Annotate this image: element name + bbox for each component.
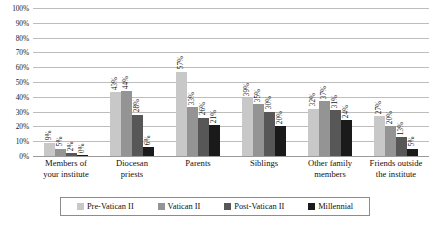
bar-fill bbox=[143, 147, 154, 156]
y-axis-tick-label: 30% bbox=[16, 107, 29, 116]
x-axis-labels: Members ofyour instituteDiocesanpriestsP… bbox=[33, 158, 429, 180]
bar-group: 43%44%28%6% bbox=[99, 8, 165, 156]
legend-swatch bbox=[158, 203, 165, 210]
bar: 28% bbox=[132, 115, 143, 156]
x-axis-label: Siblings bbox=[231, 158, 297, 180]
bar-value-label: 5% bbox=[409, 137, 416, 147]
bar-value-label: 33% bbox=[189, 92, 196, 105]
bar: 57% bbox=[176, 72, 187, 156]
legend-item[interactable]: Vatican II bbox=[158, 202, 201, 211]
x-axis-label-line: members bbox=[297, 169, 363, 180]
y-axis-tick-label: 0% bbox=[19, 152, 29, 161]
bar: 37% bbox=[319, 101, 330, 156]
bar-value-label: 30% bbox=[266, 96, 273, 109]
bar: 9% bbox=[44, 143, 55, 156]
bar-value-label: 39% bbox=[244, 83, 251, 96]
bar: 24% bbox=[341, 120, 352, 156]
x-axis-label-line: Friends outside bbox=[363, 158, 429, 169]
bar: 26% bbox=[198, 118, 209, 156]
x-axis-label: Parents bbox=[165, 158, 231, 180]
bar-group: 9%5%2%0% bbox=[33, 8, 99, 156]
bar-value-label: 20% bbox=[387, 111, 394, 124]
x-axis-label-line: the institute bbox=[363, 169, 429, 180]
bar-value-label: 20% bbox=[277, 111, 284, 124]
bar: 5% bbox=[55, 149, 66, 156]
y-axis-tick-label: 40% bbox=[16, 92, 29, 101]
bar-group: 27%20%13%5% bbox=[363, 8, 429, 156]
bar-value-label: 27% bbox=[376, 101, 383, 114]
x-axis-label-line: Members of bbox=[33, 158, 99, 169]
legend-swatch bbox=[308, 203, 315, 210]
bar-fill bbox=[330, 110, 341, 156]
bar-fill bbox=[374, 116, 385, 156]
bar: 43% bbox=[110, 92, 121, 156]
bar-fill bbox=[308, 109, 319, 156]
bar-fill bbox=[242, 98, 253, 156]
bar: 13% bbox=[396, 137, 407, 156]
bar: 20% bbox=[385, 126, 396, 156]
bar-value-label: 37% bbox=[321, 86, 328, 99]
legend-label: Vatican II bbox=[168, 202, 201, 211]
legend-label: Post-Vatican II bbox=[234, 202, 284, 211]
bar-fill bbox=[110, 92, 121, 156]
bar: 20% bbox=[275, 126, 286, 156]
bar: 27% bbox=[374, 116, 385, 156]
bar-fill bbox=[198, 118, 209, 156]
x-axis-label-line: Parents bbox=[165, 158, 231, 169]
y-axis-tick-label: 50% bbox=[16, 78, 29, 87]
x-axis-label: Friends outsidethe institute bbox=[363, 158, 429, 180]
legend: Pre-Vatican IIVatican IIPost-Vatican IIM… bbox=[60, 197, 370, 216]
bar-value-label: 21% bbox=[211, 110, 218, 123]
x-axis-label-line: priests bbox=[99, 169, 165, 180]
bar-fill bbox=[132, 115, 143, 156]
x-axis-label-line: Siblings bbox=[231, 158, 297, 169]
bar-value-label: 44% bbox=[123, 76, 130, 89]
bar-value-label: 28% bbox=[134, 99, 141, 112]
y-axis-tick-label: 80% bbox=[16, 33, 29, 42]
bar-group: 57%33%26%21% bbox=[165, 8, 231, 156]
bar-fill bbox=[341, 120, 352, 156]
legend-label: Millennial bbox=[318, 202, 353, 211]
bar-fill bbox=[55, 149, 66, 156]
bar-fill bbox=[396, 137, 407, 156]
bar-value-label: 5% bbox=[57, 137, 64, 147]
bar-value-label: 32% bbox=[310, 93, 317, 106]
bar: 44% bbox=[121, 91, 132, 156]
bar-fill bbox=[121, 91, 132, 156]
bar-fill bbox=[77, 155, 88, 156]
bar-value-label: 26% bbox=[200, 102, 207, 115]
bar-fill bbox=[187, 107, 198, 156]
plot-area: 9%5%2%0%43%44%28%6%57%33%26%21%39%35%30%… bbox=[33, 8, 429, 156]
legend-item[interactable]: Millennial bbox=[308, 202, 353, 211]
bar-group: 32%37%31%24% bbox=[297, 8, 363, 156]
y-axis-tick-label: 20% bbox=[16, 122, 29, 131]
bar: 0% bbox=[77, 155, 88, 156]
legend-swatch bbox=[77, 203, 84, 210]
bar-chart: 0%10%20%30%40%50%60%70%80%90%100% 9%5%2%… bbox=[0, 0, 429, 225]
bar: 31% bbox=[330, 110, 341, 156]
bar: 2% bbox=[66, 153, 77, 156]
bar-value-label: 9% bbox=[46, 131, 53, 141]
bar-fill bbox=[407, 149, 418, 156]
x-axis-label-line: your institute bbox=[33, 169, 99, 180]
x-axis-label: Other familymembers bbox=[297, 158, 363, 180]
legend-item[interactable]: Post-Vatican II bbox=[224, 202, 284, 211]
bar-value-label: 35% bbox=[255, 89, 262, 102]
y-axis-tick-label: 70% bbox=[16, 48, 29, 57]
bar: 6% bbox=[143, 147, 154, 156]
bar-group: 39%35%30%20% bbox=[231, 8, 297, 156]
y-axis-ticks: 0%10%20%30%40%50%60%70%80%90%100% bbox=[0, 8, 33, 156]
legend-label: Pre-Vatican II bbox=[87, 202, 134, 211]
bar-fill bbox=[264, 112, 275, 156]
y-axis-tick-label: 10% bbox=[16, 137, 29, 146]
y-axis-tick-label: 100% bbox=[12, 4, 29, 13]
gridline bbox=[33, 156, 429, 157]
bar-fill bbox=[176, 72, 187, 156]
bar-fill bbox=[253, 104, 264, 156]
x-axis-label-line: Other family bbox=[297, 158, 363, 169]
legend-item[interactable]: Pre-Vatican II bbox=[77, 202, 134, 211]
bar-value-label: 57% bbox=[178, 56, 185, 69]
bar: 39% bbox=[242, 98, 253, 156]
bar: 33% bbox=[187, 107, 198, 156]
bar-value-label: 2% bbox=[68, 141, 75, 151]
